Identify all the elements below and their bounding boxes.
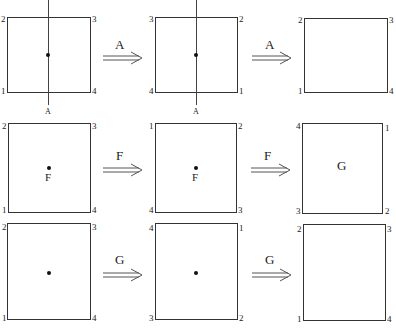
corner-label-br: 4 (389, 87, 394, 96)
center-dot (47, 166, 51, 170)
square-r3-c3 (303, 224, 386, 321)
arrow-label: A (115, 38, 124, 51)
corner-label-bl: 1 (2, 206, 7, 215)
corner-label-br: 2 (385, 207, 390, 216)
corner-label-br: 4 (92, 314, 97, 323)
corner-label-tl: 2 (297, 225, 302, 234)
corner-label-tr: 3 (92, 122, 97, 131)
corner-label-br: 3 (238, 206, 243, 215)
double-arrow-icon (251, 163, 291, 177)
corner-label-tr: 3 (389, 16, 394, 25)
corner-label-bl: 1 (297, 315, 302, 324)
axis-label: A (193, 108, 199, 116)
corner-label-bl: 3 (296, 207, 301, 216)
corner-label-bl: 4 (149, 87, 154, 96)
corner-label-bl: 1 (1, 87, 6, 96)
double-arrow-icon (252, 51, 292, 65)
arrow-label: F (264, 149, 271, 162)
double-arrow-icon (103, 163, 143, 177)
corner-label-tr: 1 (385, 124, 390, 133)
corner-label-tr: 2 (238, 122, 243, 131)
corner-label-br: 4 (387, 315, 392, 324)
double-arrow-icon (103, 51, 143, 65)
corner-label-tr: 3 (92, 15, 97, 24)
corner-label-br: 2 (239, 314, 244, 323)
center-label: F (45, 172, 51, 183)
corner-label-tl: 3 (149, 15, 154, 24)
center-dot (46, 53, 50, 57)
center-dot (194, 53, 198, 57)
corner-label-br: 4 (92, 206, 97, 215)
center-dot (194, 166, 198, 170)
corner-label-tl: 4 (296, 122, 301, 131)
corner-label-br: 1 (239, 87, 244, 96)
corner-label-tr: 3 (387, 225, 392, 234)
arrow-label: G (115, 253, 124, 266)
corner-label-tl: 2 (1, 15, 6, 24)
axis-label: A (45, 108, 51, 116)
square-r1-c3 (304, 18, 388, 93)
arrow-label: A (265, 38, 274, 51)
arrow-label: F (116, 149, 123, 162)
corner-label-bl: 3 (149, 314, 154, 323)
arrow-label: G (265, 253, 274, 266)
corner-label-bl: 1 (2, 314, 7, 323)
double-arrow-icon (103, 268, 143, 282)
center-dot (194, 271, 198, 275)
corner-label-tl: 2 (2, 122, 7, 131)
corner-label-tl: 1 (149, 122, 154, 131)
corner-label-bl: 1 (298, 87, 303, 96)
corner-label-tr: 3 (92, 223, 97, 232)
center-label: F (192, 172, 198, 183)
corner-label-bl: 4 (149, 206, 154, 215)
corner-label-tl: 4 (149, 224, 154, 233)
corner-label-br: 4 (92, 87, 97, 96)
corner-label-tr: 2 (239, 15, 244, 24)
corner-label-tl: 2 (2, 223, 7, 232)
corner-label-tr: 1 (239, 224, 244, 233)
center-dot (47, 271, 51, 275)
corner-label-tl: 2 (298, 16, 303, 25)
center-label: G (337, 160, 346, 171)
double-arrow-icon (252, 268, 292, 282)
